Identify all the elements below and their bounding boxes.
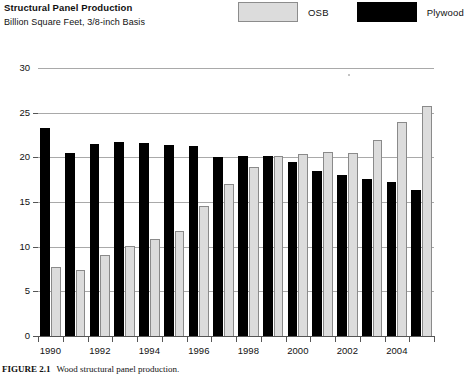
bar-osb-1993 <box>125 246 135 336</box>
bar-osb-2002 <box>348 153 358 336</box>
x-axis-label-1998: 1998 <box>228 345 268 356</box>
bar-group-2004 <box>385 68 410 336</box>
x-axis-label-1990: 1990 <box>30 345 70 356</box>
x-axis-label-2004: 2004 <box>377 345 417 356</box>
bar-osb-2005 <box>422 106 432 336</box>
x-axis-tick-1993 <box>112 336 113 342</box>
plot-area <box>38 68 434 336</box>
caption-text: Wood structural panel production. <box>57 364 180 374</box>
x-axis-tick-1998 <box>236 336 237 342</box>
title-block: Structural Panel Production Billion Squa… <box>4 2 145 28</box>
bar-plywood-2000 <box>288 162 298 336</box>
bar-osb-1990 <box>51 267 61 336</box>
x-axis-tick-1990 <box>38 336 39 342</box>
legend-item-osb: OSB <box>238 2 329 22</box>
x-axis-tick-2000 <box>286 336 287 342</box>
bar-osb-1999 <box>274 156 284 336</box>
y-axis-label-10: 10 <box>6 241 30 252</box>
x-axis-tick-2004 <box>385 336 386 342</box>
bar-plywood-1993 <box>114 142 124 336</box>
x-axis-tick-2002 <box>335 336 336 342</box>
x-axis-label-2000: 2000 <box>278 345 318 356</box>
bar-plywood-1990 <box>40 128 50 336</box>
y-axis-label-30: 30 <box>6 62 30 73</box>
bar-osb-2000 <box>298 154 308 336</box>
x-axis-tick-1995 <box>162 336 163 342</box>
bar-osb-1992 <box>100 255 110 336</box>
x-axis-label-1994: 1994 <box>129 345 169 356</box>
bar-plywood-1996 <box>189 146 199 336</box>
x-axis-tick-1992 <box>88 336 89 342</box>
x-axis-tick-1999 <box>261 336 262 342</box>
legend-swatch-osb-icon <box>238 2 298 22</box>
y-axis-label-25: 25 <box>6 107 30 118</box>
x-axis-label-1992: 1992 <box>80 345 120 356</box>
bar-plywood-1994 <box>139 143 149 336</box>
bar-osb-1997 <box>224 184 234 336</box>
bar-group-1991 <box>63 68 88 336</box>
x-axis-label-1996: 1996 <box>179 345 219 356</box>
figure-caption: FIGURE 2.1Wood structural panel producti… <box>2 364 179 374</box>
chart-legend: OSB Plywood <box>238 0 464 24</box>
bar-plywood-2001 <box>312 171 322 336</box>
bar-group-1995 <box>162 68 187 336</box>
bar-osb-1996 <box>199 206 209 336</box>
y-axis-label-5: 5 <box>6 285 30 296</box>
bar-group-1999 <box>261 68 286 336</box>
bar-group-1992 <box>88 68 113 336</box>
bar-group-2003 <box>360 68 385 336</box>
x-axis-tick-end <box>434 336 435 342</box>
x-axis-label-2002: 2002 <box>327 345 367 356</box>
bar-plywood-2005 <box>411 190 421 336</box>
x-axis-tick-2003 <box>360 336 361 342</box>
y-axis-label-15: 15 <box>6 196 30 207</box>
bar-osb-1994 <box>150 239 160 336</box>
legend-label-plywood: Plywood <box>427 7 464 18</box>
bar-group-2005 <box>409 68 434 336</box>
bar-group-1994 <box>137 68 162 336</box>
x-axis-tick-1997 <box>211 336 212 342</box>
bar-series-container <box>38 68 434 336</box>
page-title: Structural Panel Production <box>4 2 145 14</box>
x-axis-tick-1994 <box>137 336 138 342</box>
bar-plywood-1998 <box>238 156 248 336</box>
bar-plywood-1995 <box>164 145 174 336</box>
chart-header: Structural Panel Production Billion Squa… <box>0 0 436 48</box>
bar-osb-2003 <box>373 140 383 336</box>
bar-group-2001 <box>310 68 335 336</box>
bar-group-1990 <box>38 68 63 336</box>
legend-item-plywood: Plywood <box>357 2 464 22</box>
bar-plywood-1997 <box>213 157 223 336</box>
x-axis-tick-2005 <box>409 336 410 342</box>
bar-group-1993 <box>112 68 137 336</box>
bar-plywood-2002 <box>337 175 347 336</box>
bar-group-2002 <box>335 68 360 336</box>
chart-subtitle: Billion Square Feet, 3/8-inch Basis <box>4 16 145 28</box>
x-axis-tick-1996 <box>187 336 188 342</box>
bar-plywood-1992 <box>90 144 100 336</box>
bar-group-2000 <box>286 68 311 336</box>
x-axis-tick-1991 <box>63 336 64 342</box>
legend-label-osb: OSB <box>308 7 329 18</box>
legend-swatch-plywood-icon <box>357 2 417 22</box>
bar-osb-1991 <box>76 270 86 336</box>
y-axis-label-0: 0 <box>6 330 30 341</box>
bar-osb-1998 <box>249 167 259 336</box>
bar-group-1998 <box>236 68 261 336</box>
bar-plywood-1999 <box>263 156 273 336</box>
bar-group-1996 <box>187 68 212 336</box>
y-axis-label-20: 20 <box>6 151 30 162</box>
caption-figure-number: FIGURE 2.1 <box>2 364 51 374</box>
bar-group-1997 <box>211 68 236 336</box>
bar-plywood-2003 <box>362 179 372 336</box>
bar-plywood-2004 <box>387 182 397 336</box>
x-axis-tick-2001 <box>310 336 311 342</box>
bar-plywood-1991 <box>65 153 75 336</box>
bar-osb-2001 <box>323 152 333 336</box>
bar-osb-2004 <box>397 122 407 336</box>
bar-osb-1995 <box>175 231 185 336</box>
